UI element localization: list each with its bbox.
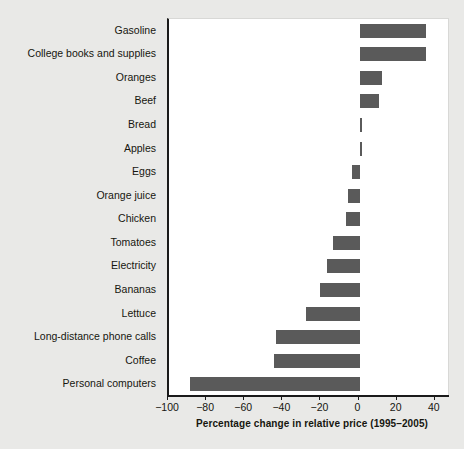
category-label: Bananas <box>115 283 156 295</box>
relative-price-change-bar-chart: GasolineCollege books and suppliesOrange… <box>0 0 464 449</box>
bar <box>352 165 360 179</box>
x-axis-tick <box>358 395 359 400</box>
bar <box>327 259 359 273</box>
bar <box>190 377 360 391</box>
x-axis-tick-label: 0 <box>338 401 378 414</box>
bar <box>333 236 360 250</box>
category-label: Eggs <box>132 165 156 177</box>
bar <box>320 283 360 297</box>
bars-layer <box>169 19 448 395</box>
x-axis-tick-label: −80 <box>185 401 225 414</box>
bar <box>346 212 359 226</box>
category-label: Oranges <box>116 71 156 83</box>
bar <box>306 307 359 321</box>
x-axis-tick <box>167 395 168 400</box>
bar <box>360 94 379 108</box>
x-axis-tick-label: 40 <box>414 401 454 414</box>
x-axis-tick <box>243 395 244 400</box>
x-axis-tick-label: 20 <box>376 401 416 414</box>
plot-area <box>167 18 449 395</box>
bar <box>276 330 360 344</box>
bar <box>274 354 360 368</box>
category-label: Beef <box>134 94 156 106</box>
category-label: Chicken <box>118 212 156 224</box>
x-axis-tick-label: −100 <box>147 401 187 414</box>
x-axis-tick <box>281 395 282 400</box>
bar <box>360 142 362 156</box>
x-axis-tick <box>396 395 397 400</box>
bar <box>348 189 359 203</box>
x-axis-tick <box>434 395 435 400</box>
x-axis-tick-label: −40 <box>261 401 301 414</box>
category-axis-labels: GasolineCollege books and suppliesOrange… <box>0 18 162 395</box>
category-label: Electricity <box>111 259 156 271</box>
x-axis-title: Percentage change in relative price (199… <box>167 418 457 429</box>
bar <box>360 47 427 61</box>
category-label: Personal computers <box>63 377 156 389</box>
category-label: Long-distance phone calls <box>34 330 156 342</box>
bar <box>360 24 427 38</box>
x-axis-tick <box>319 395 320 400</box>
category-label: Bread <box>128 118 156 130</box>
x-axis-tick <box>205 395 206 400</box>
x-axis-tick-label: −20 <box>299 401 339 414</box>
category-label: Tomatoes <box>110 236 156 248</box>
bar <box>360 71 383 85</box>
category-label: Apples <box>124 142 156 154</box>
category-label: Gasoline <box>115 24 156 36</box>
category-label: Coffee <box>125 354 156 366</box>
x-axis-tick-label: −60 <box>223 401 263 414</box>
category-label: Orange juice <box>96 189 156 201</box>
bar <box>360 118 363 132</box>
x-axis-line <box>167 395 449 397</box>
category-label: College books and supplies <box>28 47 156 59</box>
category-label: Lettuce <box>122 307 156 319</box>
